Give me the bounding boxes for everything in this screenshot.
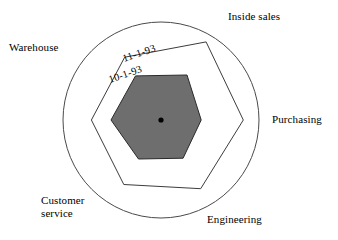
series-label-outer: 11-1-93 [121,42,157,64]
radar-chart-page: 11-1-93 10-1-93 Inside sales Purchasing … [0,0,338,240]
axis-label-inside-sales: Inside sales [228,10,280,23]
axis-label-purchasing: Purchasing [272,113,322,126]
axis-label-engineering: Engineering [207,213,262,226]
center-dot [158,117,163,122]
axis-label-customer-service: Customer service [41,194,85,219]
series-polygon-inner [111,75,201,159]
axis-label-warehouse: Warehouse [9,41,59,54]
